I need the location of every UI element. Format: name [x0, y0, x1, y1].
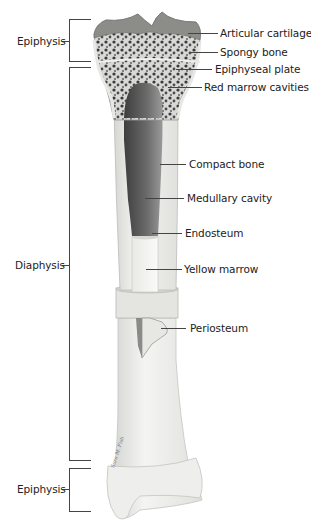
label-medullary-cavity: Medullary cavity: [187, 192, 272, 204]
lower-shaft: [107, 318, 202, 519]
leader-epiphyseal-plate: [176, 69, 212, 70]
bone-diagram: Sara M. Fish Epiphysis Diaphysis Epiphys…: [0, 0, 311, 526]
label-red-marrow-cavities: Red marrow cavities: [204, 81, 309, 93]
leader-spongy-bone: [190, 52, 218, 53]
label-endosteum: Endosteum: [185, 227, 243, 239]
label-spongy-bone: Spongy bone: [220, 46, 288, 58]
label-yellow-marrow: Yellow marrow: [184, 263, 258, 275]
leader-red-marrow-cavities: [168, 87, 202, 88]
label-epiphysis-proximal: Epiphysis: [17, 35, 66, 47]
label-articular-cartilage: Articular cartilage: [220, 27, 311, 39]
leader-endosteum: [152, 233, 182, 234]
label-diaphysis: Diaphysis: [15, 259, 65, 271]
leader-compact-bone: [160, 164, 186, 165]
leader-articular-cartilage: [188, 33, 218, 34]
label-compact-bone: Compact bone: [189, 158, 264, 170]
label-periosteum: Periosteum: [190, 322, 248, 334]
leader-periosteum: [161, 328, 186, 329]
label-epiphysis-distal: Epiphysis: [17, 483, 66, 495]
leader-yellow-marrow: [146, 269, 182, 270]
label-epiphyseal-plate: Epiphyseal plate: [215, 63, 300, 75]
leader-medullary-cavity: [145, 198, 184, 199]
